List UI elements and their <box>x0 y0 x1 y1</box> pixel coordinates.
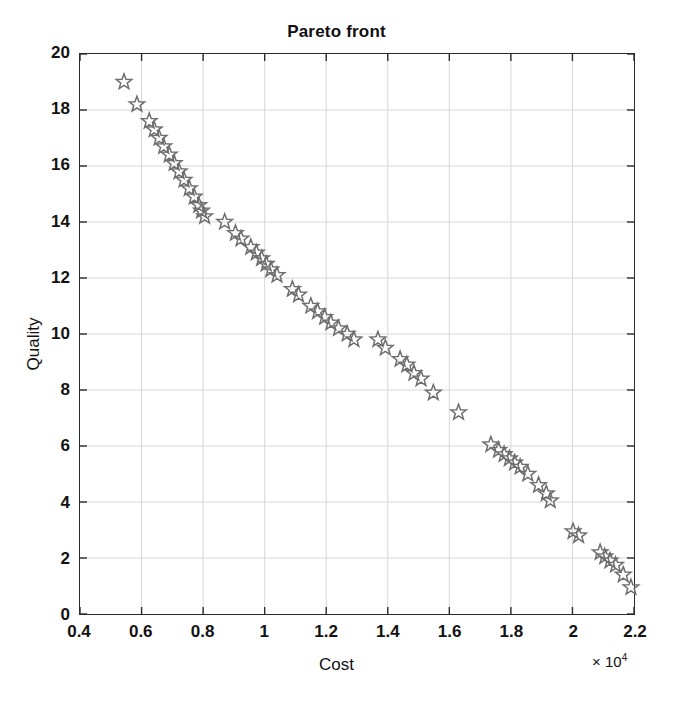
y-tick-label: 10 <box>51 324 70 344</box>
y-axis-label: Quality <box>24 264 44 424</box>
data-point <box>520 466 536 481</box>
x-tick-label: 1.8 <box>500 622 524 642</box>
y-tick-label: 0 <box>61 605 70 625</box>
data-point <box>116 74 132 89</box>
exponent-power: 4 <box>622 652 628 663</box>
data-point <box>571 527 587 542</box>
data-point <box>166 155 182 170</box>
data-point <box>565 523 581 538</box>
scatter-markers <box>80 54 634 614</box>
plot-area <box>79 53 635 615</box>
data-point <box>491 442 507 457</box>
data-point <box>217 214 233 229</box>
data-point <box>426 385 442 400</box>
y-tick-label: 12 <box>51 268 70 288</box>
data-point <box>171 163 187 178</box>
data-point <box>331 320 347 335</box>
y-tick-label: 8 <box>61 380 70 400</box>
y-tick-label: 14 <box>51 212 70 232</box>
x-tick-label: 1.2 <box>314 622 338 642</box>
y-tick-label: 4 <box>61 493 70 513</box>
x-tick-label: 0.6 <box>129 622 153 642</box>
y-tick-label: 16 <box>51 155 70 175</box>
x-tick-label: 0.4 <box>67 622 91 642</box>
data-point <box>602 553 618 568</box>
data-point <box>378 340 394 355</box>
chart-title: Pareto front <box>0 22 673 42</box>
chart-figure: Pareto front 0.40.60.811.21.41.61.822.2 … <box>0 0 673 717</box>
data-point <box>608 557 624 572</box>
data-point <box>129 96 145 111</box>
y-tick-label: 6 <box>61 436 70 456</box>
x-axis-label: Cost <box>0 655 673 675</box>
x-tick-label: 1 <box>260 622 269 642</box>
x-tick-label: 2 <box>568 622 577 642</box>
x-axis-exponent: × 104 <box>592 652 627 670</box>
data-point <box>623 579 639 594</box>
data-point <box>413 371 429 386</box>
data-point <box>615 567 631 582</box>
y-tick-label: 20 <box>51 43 70 63</box>
x-tick-label: 1.6 <box>438 622 462 642</box>
data-point <box>483 436 499 451</box>
x-tick-label: 2.2 <box>623 622 647 642</box>
x-tick-label: 0.8 <box>191 622 215 642</box>
data-point <box>346 331 362 346</box>
data-point <box>507 455 523 470</box>
y-tick-label: 2 <box>61 549 70 569</box>
x-tick-label: 1.4 <box>376 622 400 642</box>
exponent-base: × 10 <box>592 653 622 670</box>
y-tick-label: 18 <box>51 99 70 119</box>
data-point <box>146 121 162 136</box>
data-point <box>451 404 467 419</box>
data-point <box>141 113 157 128</box>
